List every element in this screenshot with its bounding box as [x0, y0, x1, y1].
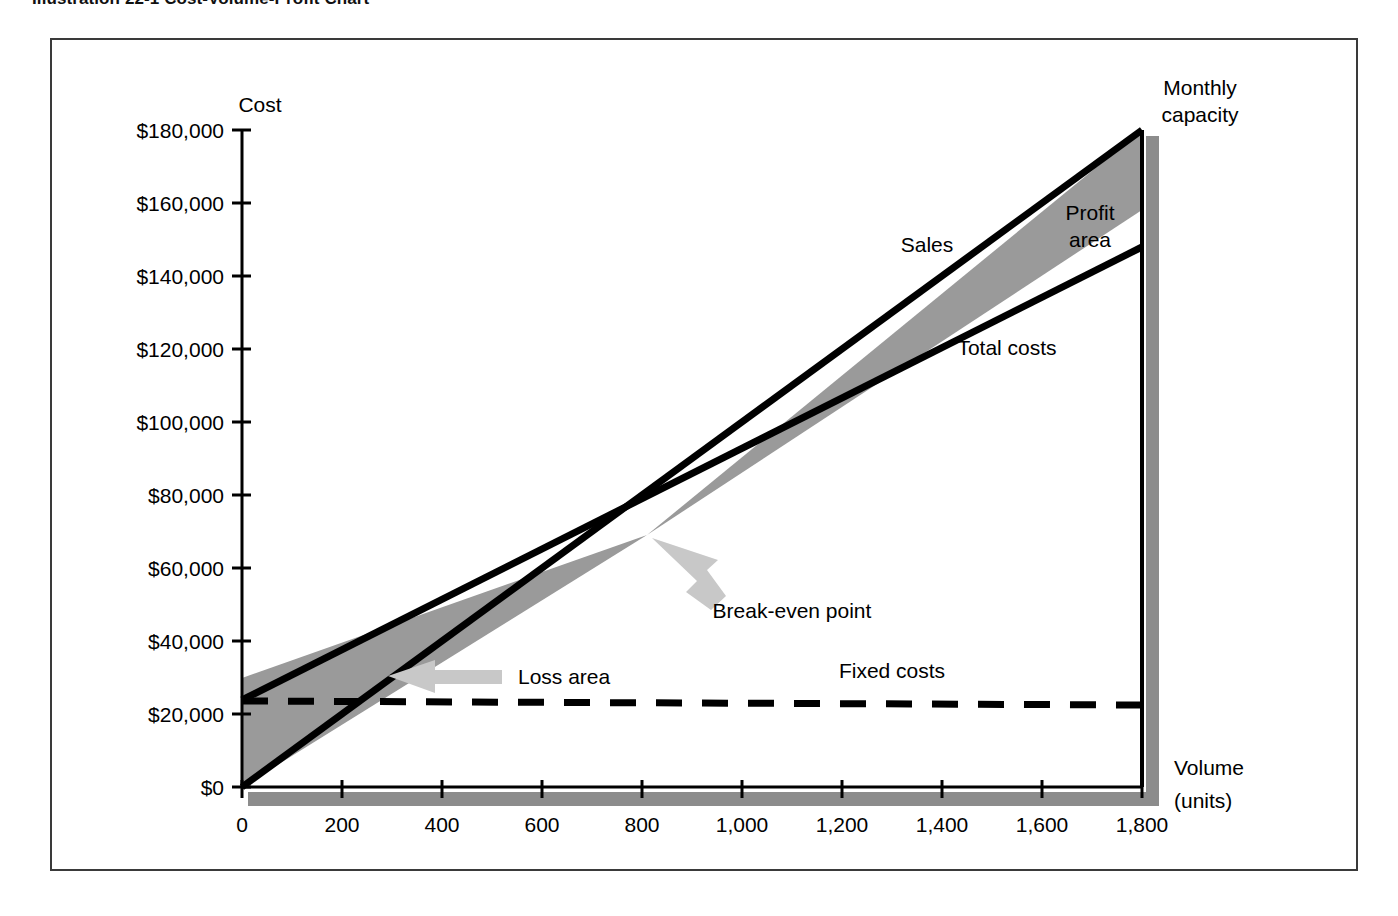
y-tick-label-20000: $20,000 [148, 703, 224, 726]
y-tick-label-180000: $180,000 [136, 119, 224, 142]
y-tick-label-140000: $140,000 [136, 265, 224, 288]
x-tick-label-400: 400 [424, 813, 459, 836]
sales-line [242, 130, 1142, 787]
x-axis-title: Volume [1174, 756, 1244, 779]
x-tick-label-0: 0 [236, 813, 248, 836]
illustration-frame: $180,000 $160,000 $140,000 $120,000 $100… [50, 38, 1358, 871]
series-label-fixed-costs: Fixed costs [839, 659, 945, 682]
x-tick-label-1400: 1,400 [916, 813, 969, 836]
break-even-point-label: Break-even point [713, 599, 872, 622]
total-costs-line [242, 247, 1142, 700]
series-label-sales: Sales [901, 233, 954, 256]
loss-area-fill [242, 535, 647, 787]
x-axis-shadow [248, 792, 1148, 806]
x-axis-title-units: (units) [1174, 789, 1232, 812]
series-label-total-costs: Total costs [957, 336, 1056, 359]
y-tick-label-100000: $100,000 [136, 411, 224, 434]
monthly-capacity-label-line1: Monthly [1163, 76, 1237, 99]
figure-caption: Illustration 22-1 Cost-Volume-Profit Cha… [32, 0, 369, 9]
y-tick-label-80000: $80,000 [148, 484, 224, 507]
profit-area-label-line2: area [1069, 228, 1111, 251]
cost-volume-profit-chart: $180,000 $160,000 $140,000 $120,000 $100… [52, 40, 1356, 869]
profit-area-label-line1: Profit [1065, 201, 1114, 224]
x-tick-label-1800: 1,800 [1116, 813, 1169, 836]
capacity-line-shadow [1146, 136, 1159, 806]
y-tick-label-60000: $60,000 [148, 557, 224, 580]
x-tick-label-1200: 1,200 [816, 813, 869, 836]
x-tick-label-600: 600 [524, 813, 559, 836]
loss-area-label: Loss area [518, 665, 611, 688]
x-tick-label-1600: 1,600 [1016, 813, 1069, 836]
x-tick-label-1000: 1,000 [716, 813, 769, 836]
y-tick-label-40000: $40,000 [148, 630, 224, 653]
profit-area-fill [647, 130, 1142, 535]
y-tick-label-160000: $160,000 [136, 192, 224, 215]
y-axis-title: Cost [238, 93, 281, 116]
y-tick-label-120000: $120,000 [136, 338, 224, 361]
figure-caption-strip: Illustration 22-1 Cost-Volume-Profit Cha… [0, 0, 1398, 14]
x-tick-label-200: 200 [324, 813, 359, 836]
monthly-capacity-label-line2: capacity [1161, 103, 1239, 126]
x-tick-label-800: 800 [624, 813, 659, 836]
y-tick-label-0: $0 [201, 776, 224, 799]
